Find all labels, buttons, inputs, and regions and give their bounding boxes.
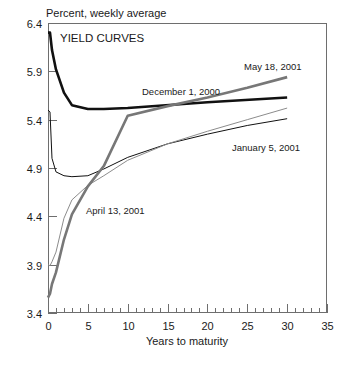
yield-curves-chart: Percent, weekly average 3.43.94.44.95.45… bbox=[0, 0, 349, 367]
y-axis-tick-labels: 3.43.94.44.95.45.96.4 bbox=[27, 18, 42, 320]
series-line bbox=[48, 108, 287, 266]
x-axis-tick-labels: 05101520253035 bbox=[45, 320, 333, 332]
yield-curves-figure: Percent, weekly average 3.43.94.44.95.45… bbox=[0, 0, 349, 367]
series-lines bbox=[48, 33, 287, 298]
series-label: April 13, 2001 bbox=[86, 205, 145, 216]
series-label: December 1, 2000 bbox=[142, 86, 220, 97]
y-axis-tick-label: 3.4 bbox=[27, 308, 42, 320]
y-axis-tick-label: 6.4 bbox=[27, 18, 42, 30]
x-axis-tick-label: 35 bbox=[321, 320, 333, 332]
y-axis-tick-label: 5.9 bbox=[27, 66, 42, 78]
series-label: January 5, 2001 bbox=[232, 142, 300, 153]
units-label-group: Percent, weekly average bbox=[46, 7, 166, 19]
x-axis-tick-label: 10 bbox=[122, 320, 134, 332]
series-label: May 18, 2001 bbox=[244, 61, 302, 72]
units-label: Percent, weekly average bbox=[46, 7, 166, 19]
y-axis-tick-label: 4.4 bbox=[27, 211, 42, 223]
y-axis-tick-label: 3.9 bbox=[27, 260, 42, 272]
x-axis-title: Years to maturity bbox=[146, 335, 229, 347]
x-axis-tick-label: 15 bbox=[162, 320, 174, 332]
chart-title: YIELD CURVES bbox=[60, 32, 144, 44]
series-line bbox=[48, 77, 287, 297]
x-axis-ticks bbox=[49, 304, 328, 313]
x-axis-tick-label: 0 bbox=[45, 320, 51, 332]
x-axis-tick-label: 30 bbox=[281, 320, 293, 332]
x-axis-tick-label: 25 bbox=[241, 320, 253, 332]
x-axis-tick-label: 5 bbox=[85, 320, 91, 332]
y-axis-tick-label: 5.4 bbox=[27, 115, 42, 127]
y-axis-tick-label: 4.9 bbox=[27, 163, 42, 175]
x-axis-tick-label: 20 bbox=[201, 320, 213, 332]
